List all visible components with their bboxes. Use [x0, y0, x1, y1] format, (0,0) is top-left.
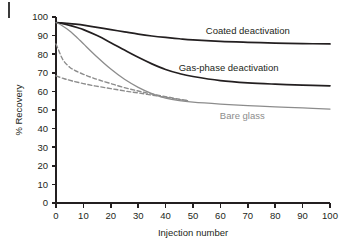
series-line-dashed-upper — [56, 44, 188, 101]
y-tick-label: 60 — [37, 86, 48, 97]
y-tick-label: 80 — [37, 49, 48, 60]
x-tick-label: 20 — [106, 210, 117, 221]
series-label-bare-glass: Bare glass — [220, 110, 265, 121]
y-tick-label: 40 — [37, 123, 48, 134]
page-edge-mark-icon — [8, 2, 10, 18]
series-label-coated-deactivation: Coated deactivation — [206, 25, 290, 36]
series-line-dashed-lower — [56, 76, 188, 101]
x-axis-title: Injection number — [158, 227, 228, 238]
y-tick-label: 30 — [37, 142, 48, 153]
x-tick-label: 10 — [78, 210, 89, 221]
y-tick-label: 50 — [37, 104, 48, 115]
x-tick-label: 50 — [188, 210, 199, 221]
y-axis-title: % Recovery — [13, 84, 24, 135]
series-label-gas-phase-deactivation: Gas-phase deactivation — [179, 62, 279, 73]
x-tick-label: 60 — [215, 210, 226, 221]
y-tick-label: 20 — [37, 160, 48, 171]
y-tick-label: 100 — [32, 11, 48, 22]
x-tick-label: 90 — [297, 210, 308, 221]
x-tick-label: 80 — [270, 210, 281, 221]
y-tick-label: 90 — [37, 30, 48, 41]
x-tick-label: 70 — [243, 210, 254, 221]
x-tick-label: 40 — [160, 210, 171, 221]
x-tick-label: 30 — [133, 210, 144, 221]
x-tick-label: 0 — [53, 210, 58, 221]
y-tick-label: 10 — [37, 179, 48, 190]
y-tick-label: 70 — [37, 67, 48, 78]
recovery-vs-injection-chart: 0102030405060708090100010203040506070809… — [0, 0, 348, 250]
x-tick-label: 100 — [322, 210, 338, 221]
y-tick-label: 0 — [43, 197, 48, 208]
chart-figure: 0102030405060708090100010203040506070809… — [0, 0, 348, 250]
